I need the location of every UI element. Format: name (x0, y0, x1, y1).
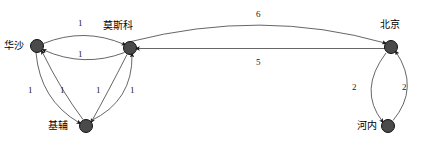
node-label-warsaw: 华沙 (4, 41, 24, 51)
edge-weight-beijing-hanoi-left: 2 (352, 83, 357, 92)
node-label-hanoi: 河内 (357, 121, 377, 131)
edge-moscow-warsaw-bot (44, 50, 125, 60)
edge-weight-moscow-kiev-inner: 1 (96, 86, 101, 95)
node-beijing[interactable] (385, 41, 398, 54)
edge-weight-warsaw-kiev-outer: 1 (28, 86, 33, 95)
node-label-kiev: 基辅 (48, 121, 68, 131)
graph-diagram-canvas: 华沙 莫斯科 基辅 北京 河内 1 1 1 1 1 1 6 5 2 2 (0, 0, 422, 143)
edge-weight-moscow-beijing: 6 (256, 10, 261, 19)
node-label-beijing: 北京 (380, 20, 400, 30)
edge-weight-kiev-moscow-outer: 1 (130, 86, 135, 95)
edge-beijing-hanoi-left (371, 53, 386, 122)
edge-weight-hanoi-beijing-right: 2 (402, 83, 407, 92)
node-moscow[interactable] (124, 42, 137, 55)
edge-weight-warsaw-moscow-top: 1 (78, 19, 83, 28)
graph-nodes (31, 40, 398, 133)
edge-weight-beijing-moscow: 5 (256, 58, 261, 67)
node-hanoi[interactable] (382, 120, 395, 133)
edge-weight-moscow-warsaw-bot: 1 (78, 50, 83, 59)
edge-weight-kiev-warsaw-inner: 1 (60, 86, 65, 95)
edge-warsaw-moscow-top (44, 35, 125, 44)
node-kiev[interactable] (80, 120, 93, 133)
node-warsaw[interactable] (31, 40, 44, 53)
edge-warsaw-kiev-outer (36, 53, 80, 124)
node-label-moscow: 莫斯科 (103, 21, 133, 31)
edge-moscow-beijing (131, 25, 385, 43)
